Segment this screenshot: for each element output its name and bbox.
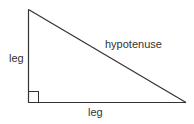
hypotenuse-line — [29, 10, 187, 103]
right-angle-marker — [29, 92, 39, 103]
hypotenuse-label: hypotenuse — [105, 38, 162, 50]
horizontal-leg-label: leg — [88, 106, 103, 118]
right-triangle-diagram: leg leg hypotenuse — [0, 0, 194, 124]
vertical-leg-label: leg — [9, 52, 24, 64]
